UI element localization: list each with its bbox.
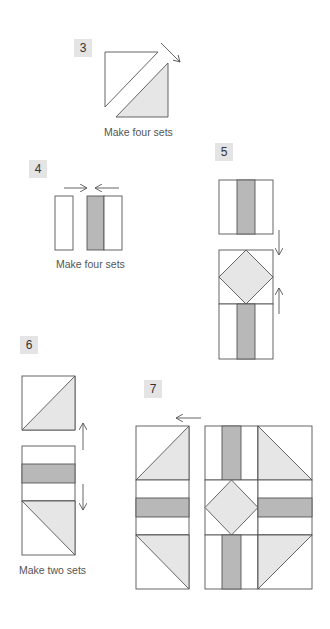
dark-strip — [87, 196, 104, 250]
white-strip — [104, 196, 122, 250]
step-4-strip-set — [55, 188, 122, 250]
step-7-assembly — [136, 418, 312, 589]
arrow-icon — [161, 43, 180, 62]
dark-strip — [222, 426, 241, 480]
dark-strip — [222, 535, 241, 589]
dark-strip — [237, 180, 255, 234]
step-5-assembly — [219, 180, 279, 359]
dark-strip — [136, 498, 189, 517]
quilt-assembly-diagram — [0, 0, 330, 629]
dark-strip — [237, 304, 255, 359]
dark-strip — [258, 498, 312, 517]
step-6-assembly — [22, 376, 83, 555]
white-strip — [55, 196, 73, 250]
dark-strip — [22, 464, 75, 483]
step-3-half-square-triangle — [105, 43, 180, 117]
